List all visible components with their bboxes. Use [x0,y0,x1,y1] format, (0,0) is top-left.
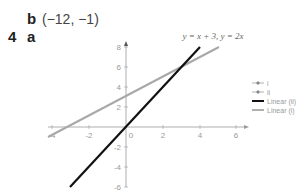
y-tick-label: 6 [117,63,122,72]
line-y-equals-2x [70,47,200,187]
legend-item-ii: ii [252,89,271,96]
diamond-marker-icon [256,90,260,94]
x-tick-label: 2 [161,131,166,140]
y-tick-label: 8 [117,43,122,52]
svg-text:i: i [267,80,269,87]
legend-item-i: i [252,80,269,87]
legend-item-linear-i: Linear (i) [252,107,295,115]
chart-legend: i ii Linear (ii) Linear (i) [252,80,296,115]
svg-text:Linear (i): Linear (i) [267,107,295,115]
y-axis: 8 6 4 2 -2 -4 -6 [114,41,128,192]
line-chart: y = x + 3, y = 2x -4 -2 0 2 4 6 8 6 4 2 … [0,0,306,195]
x-axis: -4 -2 0 2 4 6 [48,125,249,140]
y-tick-label: 2 [117,103,122,112]
y-tick-label: -2 [114,143,122,152]
y-tick-label: -6 [114,183,122,192]
x-tick-label: 4 [198,131,203,140]
x-tick-label: 6 [234,131,239,140]
y-tick-label: 4 [117,83,122,92]
y-tick-label: -4 [114,163,122,172]
chart-title: y = x + 3, y = 2x [181,31,243,41]
x-tick-label: -2 [85,131,93,140]
line-y-equals-x-plus-3 [48,47,219,137]
x-tick-label: 0 [129,131,134,140]
svg-text:ii: ii [267,89,271,96]
svg-text:Linear (ii): Linear (ii) [267,98,296,106]
legend-item-linear-ii: Linear (ii) [252,98,296,106]
diamond-marker-icon [256,81,260,85]
